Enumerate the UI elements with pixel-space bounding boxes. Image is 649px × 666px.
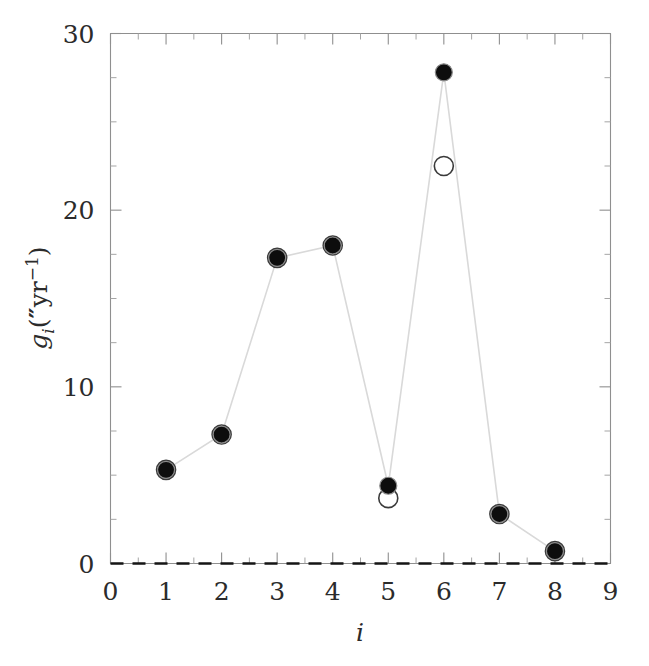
x-tick-label: 3 <box>269 577 285 606</box>
data-point-filled <box>491 506 508 523</box>
figure-container: 0123456789 0102030 i gi(″yr−1) <box>0 0 649 666</box>
y-axis-tick-labels: 0102030 <box>63 20 95 579</box>
data-point-filled <box>158 461 175 478</box>
x-axis-ticks <box>111 34 611 564</box>
plot-frame <box>111 34 611 564</box>
series-polyline-group <box>166 72 555 551</box>
data-point-filled <box>435 64 452 81</box>
data-point-open <box>434 157 453 176</box>
y-axis-title: gi(″yr−1) <box>22 246 58 349</box>
x-tick-label: 6 <box>436 577 452 606</box>
x-tick-label: 8 <box>547 577 563 606</box>
y-tick-label: 0 <box>79 550 95 579</box>
x-axis-title: i <box>356 618 364 647</box>
y-tick-label: 10 <box>63 373 95 402</box>
data-point-filled <box>213 426 230 443</box>
data-point-filled <box>546 543 563 560</box>
x-tick-label: 2 <box>214 577 230 606</box>
x-tick-label: 7 <box>491 577 507 606</box>
y-axis-ticks <box>111 34 611 564</box>
x-tick-label: 4 <box>325 577 341 606</box>
open-circle-markers <box>157 157 565 561</box>
x-tick-label: 5 <box>380 577 396 606</box>
axis-frame <box>111 34 611 564</box>
x-tick-label: 0 <box>103 577 119 606</box>
data-point-filled <box>269 249 286 266</box>
data-point-filled <box>324 237 341 254</box>
y-axis-title-group: gi(″yr−1) <box>22 246 58 349</box>
series-line-filled <box>166 72 555 551</box>
x-tick-label: 9 <box>603 577 619 606</box>
y-tick-label: 30 <box>63 20 95 49</box>
scatter-plot: 0123456789 0102030 i gi(″yr−1) <box>0 0 649 666</box>
filled-circle-markers <box>158 64 564 560</box>
x-axis-tick-labels: 0123456789 <box>103 577 619 606</box>
data-point-filled <box>380 477 397 494</box>
y-tick-label: 20 <box>63 196 95 225</box>
x-tick-label: 1 <box>158 577 174 606</box>
